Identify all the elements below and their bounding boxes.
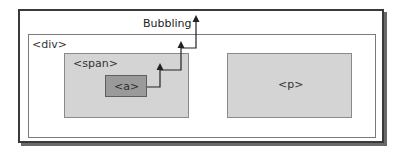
arrowhead-icon xyxy=(157,63,164,70)
arrowhead-icon xyxy=(178,41,185,48)
bubbling-arrow-path xyxy=(0,0,399,155)
arrowhead-icon xyxy=(193,15,200,22)
bubbling-arrow-line xyxy=(147,22,196,87)
